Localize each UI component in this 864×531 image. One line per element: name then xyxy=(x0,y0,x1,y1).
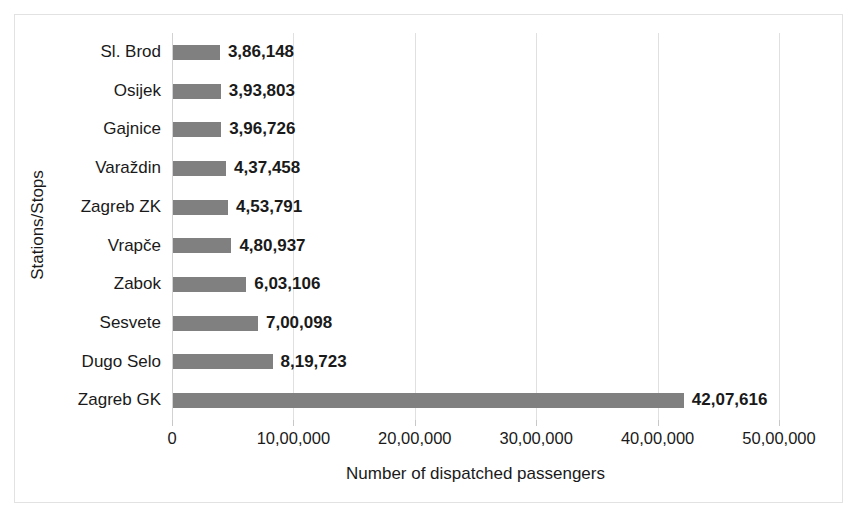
category-label: Sl. Brod xyxy=(101,33,161,72)
bar xyxy=(173,238,231,253)
bar-value-label: 7,00,098 xyxy=(266,304,332,343)
bar xyxy=(173,122,221,137)
category-label: Zabok xyxy=(114,265,161,304)
x-tick-mark xyxy=(536,420,537,426)
x-axis-title: Number of dispatched passengers xyxy=(172,464,779,484)
x-tick-label: 30,00,000 xyxy=(499,429,572,448)
bar-value-label: 4,53,791 xyxy=(236,188,302,227)
category-label: Dugo Selo xyxy=(82,343,161,382)
bar-row: Zabok6,03,106 xyxy=(172,265,779,304)
bar xyxy=(173,45,220,60)
bar-value-label: 3,93,803 xyxy=(229,72,295,111)
bar-row: Varaždin4,37,458 xyxy=(172,149,779,188)
bar-row: Osijek3,93,803 xyxy=(172,72,779,111)
bar-row: Zagreb GK42,07,616 xyxy=(172,381,779,420)
x-tick-label: 40,00,000 xyxy=(621,429,694,448)
bar-value-label: 3,86,148 xyxy=(228,33,294,72)
bar xyxy=(173,316,258,331)
category-label: Osijek xyxy=(114,72,161,111)
bar-row: Sesvete7,00,098 xyxy=(172,304,779,343)
x-tick-mark xyxy=(658,420,659,426)
bar-value-label: 4,37,458 xyxy=(234,149,300,188)
bar xyxy=(173,354,273,369)
gridline xyxy=(779,33,780,420)
bar-chart-figure: Stations/Stops Sl. Brod3,86,148Osijek3,9… xyxy=(0,0,864,531)
x-tick-label: 0 xyxy=(167,429,176,448)
category-label: Zagreb GK xyxy=(78,381,161,420)
x-tick-mark xyxy=(779,420,780,426)
bar-row: Vrapče4,80,937 xyxy=(172,227,779,266)
plot-area: Sl. Brod3,86,148Osijek3,93,803Gajnice3,9… xyxy=(172,33,779,420)
bar-value-label: 3,96,726 xyxy=(229,110,295,149)
bar-value-label: 42,07,616 xyxy=(692,381,768,420)
category-label: Vrapče xyxy=(108,227,161,266)
category-label: Varaždin xyxy=(95,149,161,188)
bar-value-label: 4,80,937 xyxy=(239,227,305,266)
bar-row: Sl. Brod3,86,148 xyxy=(172,33,779,72)
bar-row: Dugo Selo8,19,723 xyxy=(172,343,779,382)
x-tick-label: 20,00,000 xyxy=(378,429,451,448)
x-tick-mark xyxy=(415,420,416,426)
category-label: Sesvete xyxy=(100,304,161,343)
y-axis-title: Stations/Stops xyxy=(28,125,48,325)
category-label: Gajnice xyxy=(103,110,161,149)
bar xyxy=(173,161,226,176)
x-tick-mark xyxy=(172,420,173,426)
bar xyxy=(173,277,246,292)
bar-value-label: 8,19,723 xyxy=(281,343,347,382)
bar-row: Gajnice3,96,726 xyxy=(172,110,779,149)
category-label: Zagreb ZK xyxy=(81,188,161,227)
bar xyxy=(173,200,228,215)
bar xyxy=(173,393,684,408)
bar-row: Zagreb ZK4,53,791 xyxy=(172,188,779,227)
x-tick-label: 50,00,000 xyxy=(742,429,815,448)
bar xyxy=(173,84,221,99)
bar-value-label: 6,03,106 xyxy=(254,265,320,304)
x-tick-mark xyxy=(293,420,294,426)
x-tick-label: 10,00,000 xyxy=(257,429,330,448)
